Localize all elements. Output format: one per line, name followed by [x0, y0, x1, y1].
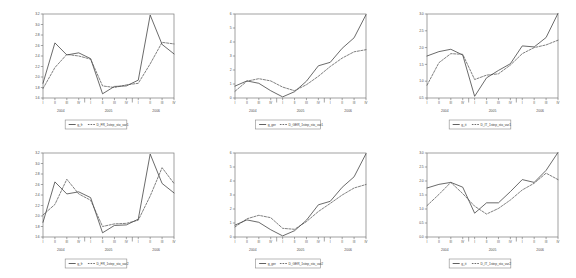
x-tick-label-quarter: I: [282, 101, 283, 105]
x-axis-year-label: 2006: [344, 109, 352, 113]
x-tick-label-quarter: IV: [556, 240, 560, 244]
plot-frame: [427, 153, 558, 237]
legend-label: D_FR_1step_sto_var2: [96, 262, 128, 266]
y-tick-label: 2.8: [35, 172, 40, 176]
x-tick-label-quarter: IV: [556, 101, 560, 105]
legend: g_gerD_GER_1step_sto_var1: [256, 120, 324, 129]
y-tick-label: 3: [230, 54, 232, 58]
x-tick-label-quarter: IV: [269, 101, 273, 105]
x-tick-label-quarter: I: [235, 101, 236, 105]
x-axis-year-label: 2004: [249, 109, 257, 113]
x-tick-label-quarter: III: [113, 240, 116, 244]
legend: g_gerD_GER_1step_sto_var2: [256, 259, 324, 268]
x-tick-label-quarter: II: [149, 101, 151, 105]
x-axis-year-label: 2004: [57, 109, 65, 113]
y-axis: 0.51.01.52.02.53.0: [419, 12, 427, 100]
y-tick-label: 6: [230, 12, 232, 16]
x-axis: IIIIIIIVIIIIIIIVIIIIIIIV200420052006: [427, 237, 561, 252]
x-tick-label-quarter: III: [449, 240, 452, 244]
y-axis: 1.61.82.02.22.42.62.83.03.2: [35, 151, 43, 239]
x-tick-label-quarter: III: [497, 101, 500, 105]
x-axis-year-label: 2004: [57, 248, 65, 252]
x-tick-label-quarter: IV: [509, 240, 513, 244]
legend: g_frD_FR_1step_sto_var2: [65, 259, 128, 268]
y-tick-label: 2.6: [35, 183, 40, 187]
x-tick-label-quarter: IV: [269, 240, 273, 244]
x-tick-label-quarter: III: [65, 101, 68, 105]
x-tick-label-quarter: IV: [77, 101, 81, 105]
plot-frame: [235, 153, 366, 237]
x-tick-label-quarter: IV: [317, 240, 321, 244]
y-tick-label: 0.0: [419, 235, 424, 239]
x-axis-year-label: 2004: [441, 109, 449, 113]
y-tick-label: 1.8: [35, 225, 40, 229]
x-tick-label-quarter: II: [54, 101, 56, 105]
x-tick-label-quarter: I: [427, 101, 428, 105]
x-axis-year-label: 2005: [489, 248, 497, 252]
y-tick-label: 2.4: [35, 54, 40, 58]
x-tick-label-quarter: II: [149, 240, 151, 244]
legend-label: g_ger: [268, 262, 277, 266]
y-tick-label: 6: [230, 151, 232, 155]
x-tick-label-quarter: IV: [509, 101, 513, 105]
x-tick-label-quarter: III: [257, 101, 260, 105]
x-axis-year-label: 2005: [105, 248, 113, 252]
x-tick-label-quarter: II: [486, 101, 488, 105]
y-tick-label: 1.8: [35, 86, 40, 90]
y-tick-label: 2.6: [35, 44, 40, 48]
x-axis-year-label: 2006: [344, 248, 352, 252]
x-tick-label-quarter: I: [282, 240, 283, 244]
y-tick-label: 0: [230, 235, 232, 239]
plot-frame: [43, 153, 174, 237]
x-axis-year-label: 2004: [249, 248, 257, 252]
y-tick-label: 1.6: [35, 96, 40, 100]
x-tick-label-quarter: III: [161, 101, 164, 105]
panel-top-right: 0.51.01.52.02.53.0IIIIIIIVIIIIIIIVIIIIII…: [384, 0, 576, 139]
x-axis: IIIIIIIVIIIIIIIVIIIIIIIV200420052006: [235, 237, 369, 252]
x-tick-label-quarter: II: [341, 240, 343, 244]
series-line-actual: [43, 15, 174, 94]
x-axis-year-label: 2005: [105, 109, 113, 113]
x-axis-year-label: 2006: [152, 109, 160, 113]
y-tick-label: 2.5: [419, 29, 424, 33]
y-tick-label: 2.0: [419, 179, 424, 183]
legend-label: D_GER_1step_sto_var1: [288, 123, 323, 127]
legend: g_frD_FR_1step_sto_var1: [65, 120, 128, 129]
legend-label: g_ger: [268, 123, 277, 127]
x-tick-label-quarter: I: [522, 101, 523, 105]
x-tick-label-quarter: III: [545, 101, 548, 105]
x-tick-label-quarter: III: [305, 101, 308, 105]
y-tick-label: 3.0: [35, 23, 40, 27]
x-tick-label-quarter: II: [246, 101, 248, 105]
x-axis: IIIIIIIVIIIIIIIVIIIIIIIV200420052006: [43, 237, 177, 252]
panel-top-middle: 0123456IIIIIIIVIIIIIIIVIIIIIIIV200420052…: [192, 0, 384, 139]
legend-label: D_IT_1step_sto_var2: [480, 262, 511, 266]
y-tick-label: 1: [230, 82, 232, 86]
x-tick-label-quarter: I: [235, 240, 236, 244]
y-axis: 0123456: [230, 12, 235, 100]
x-axis-year-label: 2005: [297, 109, 305, 113]
legend: g_itD_IT_1step_sto_var1: [449, 120, 511, 129]
x-tick-label-quarter: I: [43, 240, 44, 244]
x-tick-label-quarter: II: [341, 101, 343, 105]
legend-label: g_it: [461, 123, 466, 127]
x-axis-year-label: 2005: [297, 248, 305, 252]
y-tick-label: 0: [230, 96, 232, 100]
y-axis: 1.61.82.02.22.42.62.83.03.2: [35, 12, 43, 100]
panel-bottom-middle: 0123456IIIIIIIVIIIIIIIVIIIIIIIV200420052…: [192, 139, 384, 278]
legend: g_itD_IT_1step_sto_var2: [449, 259, 511, 268]
y-tick-label: 2.0: [419, 46, 424, 50]
y-tick-label: 2.0: [35, 214, 40, 218]
x-axis: IIIIIIIVIIIIIIIVIIIIIIIV200420052006: [43, 98, 177, 113]
x-tick-label-quarter: III: [353, 240, 356, 244]
x-tick-label-quarter: III: [161, 240, 164, 244]
x-tick-label-quarter: II: [294, 101, 296, 105]
y-tick-label: 2: [230, 68, 232, 72]
x-tick-label-quarter: IV: [77, 240, 81, 244]
panel-top-left: 1.61.82.02.22.42.62.83.03.2IIIIIIIVIIIII…: [0, 0, 192, 139]
x-tick-label-quarter: IV: [125, 240, 129, 244]
x-tick-label-quarter: II: [533, 101, 535, 105]
x-tick-label-quarter: I: [90, 240, 91, 244]
panel-bottom-right: 0.00.51.01.52.02.53.0IIIIIIIVIIIIIIIVIII…: [384, 139, 576, 278]
y-axis: 0.00.51.01.52.02.53.0: [419, 151, 427, 239]
